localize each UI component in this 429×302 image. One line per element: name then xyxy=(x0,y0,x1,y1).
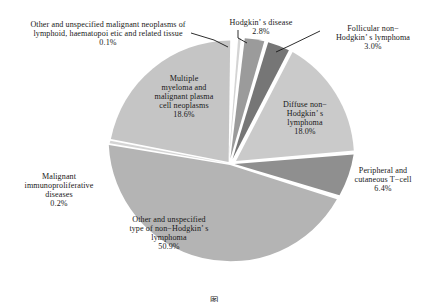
slice-label-peripheral: Peripheral and cutaneous T−cell 6.4% xyxy=(337,157,429,202)
slice-label-hodgkin: Hodgkin’ s disease 2.8% xyxy=(205,9,317,45)
slice-label-myeloma: Multiple myeloma and malignant plasma ce… xyxy=(132,65,236,128)
slice-label-myeloma-text: Multiple myeloma and malignant plasma ce… xyxy=(155,74,214,110)
slice-label-diffuse-percent: 18.0% xyxy=(256,127,354,136)
slice-label-peripheral-percent: 6.4% xyxy=(337,184,429,193)
slice-label-myeloma-percent: 18.6% xyxy=(132,110,236,119)
pie-chart-figure: Other and unspecified malignant neoplasm… xyxy=(0,0,429,302)
slice-label-nhl-other-percent: 50.9% xyxy=(96,242,242,251)
slice-label-other-malignant-text: Other and unspecified malignant neoplasm… xyxy=(30,20,185,38)
slice-label-other-malignant: Other and unspecified malignant neoplasm… xyxy=(2,11,214,56)
slice-label-hodgkin-text: Hodgkin’ s disease xyxy=(230,18,293,27)
slice-label-hodgkin-percent: 2.8% xyxy=(205,27,317,36)
slice-label-follicular: Follicular non− Hodgkin’ s lymphoma 3.0% xyxy=(318,15,428,60)
slice-label-peripheral-text: Peripheral and cutaneous T−cell xyxy=(354,166,411,184)
slice-label-diffuse-text: Diffuse non− Hodgkin’ s lymphoma xyxy=(283,100,327,127)
figure-caption: 图 xyxy=(0,293,429,302)
slice-label-follicular-text: Follicular non− Hodgkin’ s lymphoma xyxy=(336,24,410,42)
slice-label-other-malignant-percent: 0.1% xyxy=(2,38,214,47)
slice-label-nhl-other: Other and unspecified type of non−Hodgki… xyxy=(96,206,242,260)
slice-label-nhl-other-text: Other and unspecified type of non−Hodgki… xyxy=(129,215,208,242)
slice-label-immuno-text: Malignant immunoproliferative diseases xyxy=(25,172,94,199)
slice-label-diffuse: Diffuse non− Hodgkin’ s lymphoma 18.0% xyxy=(256,91,354,145)
slice-label-follicular-percent: 3.0% xyxy=(318,42,428,51)
